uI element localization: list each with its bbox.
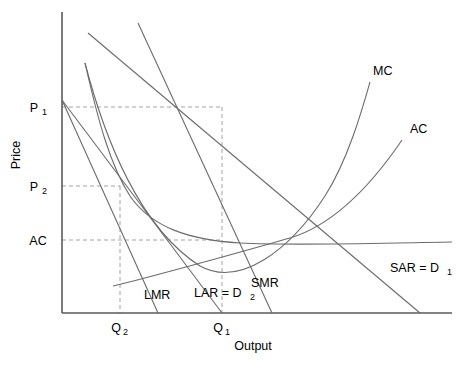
quantity-axis-labels: Q 2 Q 1 bbox=[111, 321, 230, 337]
smr-line bbox=[138, 23, 272, 313]
quantity-label-q2-sub: 2 bbox=[123, 327, 128, 337]
price-label-p1-text: P bbox=[30, 101, 38, 115]
price-label-p2-text: P bbox=[30, 180, 38, 194]
smr-label: SMR bbox=[251, 276, 279, 290]
sar-d1-label-sub: 1 bbox=[447, 267, 452, 277]
ac-curve bbox=[113, 140, 402, 286]
y-axis-title: Price bbox=[9, 141, 23, 170]
mc-curve-label: MC bbox=[373, 64, 392, 78]
price-label-p2-sub: 2 bbox=[42, 186, 47, 196]
sar-d1-label-text: SAR = D bbox=[390, 261, 439, 275]
cost-curves bbox=[85, 63, 452, 286]
quantity-label-q1-text: Q bbox=[213, 321, 223, 335]
lar-d2-line bbox=[62, 100, 222, 313]
economics-diagram: P 1 P 2 AC Q 2 Q 1 MC AC SAR = D 1 SMR L… bbox=[0, 0, 468, 366]
quantity-label-q2-text: Q bbox=[111, 321, 121, 335]
ac-curve-label: AC bbox=[410, 122, 427, 136]
x-axis-title: Output bbox=[234, 339, 272, 353]
price-label-ac-text: AC bbox=[29, 234, 46, 248]
quantity-label-q1-sub: 1 bbox=[225, 327, 230, 337]
lmr-label: LMR bbox=[144, 288, 170, 302]
sar-d1-line bbox=[88, 33, 420, 313]
lar-d2-label-text: LAR = D bbox=[194, 286, 242, 300]
sac-curve bbox=[85, 63, 452, 244]
price-label-p1-sub: 1 bbox=[42, 107, 47, 117]
lar-d2-label-sub: 2 bbox=[250, 292, 255, 302]
mc-curve bbox=[85, 63, 370, 272]
price-axis-labels: P 1 P 2 AC bbox=[29, 101, 47, 248]
